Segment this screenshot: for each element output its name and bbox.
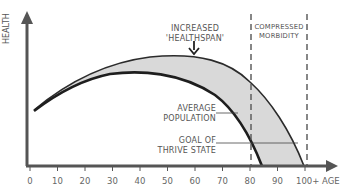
healthspan-label-line1: INCREASED: [160, 24, 230, 34]
average-population-label: AVERAGE POPULATION: [160, 104, 216, 123]
x-tick-label: 100+ AGE: [296, 176, 340, 186]
healthspan-label: INCREASED 'HEALTHSPAN': [160, 24, 230, 43]
x-tick-label: 0: [27, 176, 32, 186]
x-tick-label: 60: [190, 176, 201, 186]
average-label-line2: POPULATION: [160, 114, 216, 124]
x-tick-label: 20: [80, 176, 91, 186]
x-tick-label: 90: [272, 176, 283, 186]
x-tick-label: 30: [107, 176, 118, 186]
x-tick-label: 10: [52, 176, 63, 186]
goal-label-line2: THRIVE STATE: [150, 146, 216, 156]
morbidity-label-line2: MORBIDITY: [252, 32, 306, 41]
goal-label-line1: GOAL OF: [150, 136, 216, 146]
x-tick-label: 70: [217, 176, 228, 186]
y-axis-label: HEALTH: [2, 13, 11, 44]
compressed-morbidity-label: COMPRESSED MORBIDITY: [252, 23, 306, 41]
x-tick-label: 40: [135, 176, 146, 186]
x-tick-label: 80: [245, 176, 256, 186]
morbidity-label-line1: COMPRESSED: [252, 23, 306, 32]
average-label-line1: AVERAGE: [160, 104, 216, 114]
x-tick-label: 50: [162, 176, 173, 186]
healthspan-label-line2: 'HEALTHSPAN': [160, 34, 230, 44]
y-axis-arrow-icon: [21, 11, 33, 24]
x-axis-arrow-icon: [326, 160, 338, 172]
goal-thrive-label: GOAL OF THRIVE STATE: [150, 136, 216, 155]
